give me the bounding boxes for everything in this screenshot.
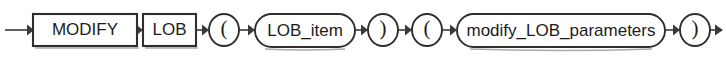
node-modify-lob-parameters[interactable]: modify_LOB_parameters <box>457 14 665 47</box>
shadow-modify-lob-parameters <box>470 49 652 51</box>
connector-arrowhead <box>361 25 368 36</box>
node-lparen-1-label: ( <box>221 16 228 40</box>
node-rparen-2-label: ) <box>692 16 699 40</box>
node-lob-item-label: LOB_item <box>267 21 343 40</box>
node-lob-label: LOB <box>152 20 186 39</box>
exit-arrow <box>710 25 723 36</box>
node-rparen-1-label: ) <box>380 16 387 40</box>
connector-rparen1-to-lparen2 <box>398 25 412 36</box>
node-rparen-1[interactable]: ) <box>368 14 398 46</box>
node-lparen-1[interactable]: ( <box>209 14 239 46</box>
connector-arrowhead <box>202 25 209 36</box>
node-modify[interactable]: MODIFY <box>33 14 137 46</box>
connector-arrowhead <box>450 25 457 36</box>
shadow-lob-item <box>265 49 345 50</box>
scan-shadow-layer <box>35 48 652 51</box>
entry-arrow <box>5 25 34 36</box>
connector-params-to-rparen2 <box>665 25 680 36</box>
railroad-diagram-canvas: MODIFY LOB ( LOB_item ) ( <box>0 0 726 61</box>
connector-arrowhead <box>248 25 255 36</box>
railroad-diagram: MODIFY LOB ( LOB_item ) ( <box>0 0 726 61</box>
node-modify-lob-parameters-label: modify_LOB_parameters <box>467 21 656 40</box>
connector-lob-to-lparen1 <box>196 25 209 36</box>
exit-arrowhead <box>715 25 723 36</box>
connector-arrowhead <box>405 25 412 36</box>
node-lob-item[interactable]: LOB_item <box>255 14 355 47</box>
node-modify-label: MODIFY <box>52 20 118 39</box>
connector-lob-item-to-rparen1 <box>355 25 368 36</box>
node-rparen-2[interactable]: ) <box>680 14 710 46</box>
node-lparen-2-label: ( <box>424 16 431 40</box>
connector-lparen1-to-lob-item <box>239 25 255 36</box>
connector-arrowhead <box>673 25 680 36</box>
connector-lparen2-to-params <box>442 25 457 36</box>
node-lob[interactable]: LOB <box>143 14 196 46</box>
node-lparen-2[interactable]: ( <box>412 14 442 46</box>
